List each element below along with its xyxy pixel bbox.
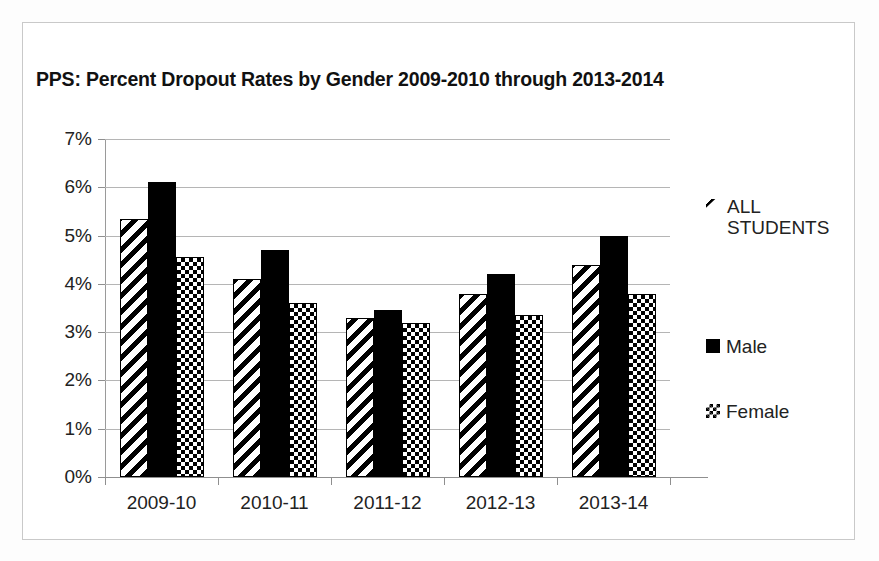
- bar-female-2009-10: [176, 257, 204, 477]
- x-axis-tick-label: 2013-14: [579, 492, 649, 514]
- plot-area: [105, 139, 670, 477]
- bar-all-students-2011-12: [346, 318, 374, 477]
- bar-group: [233, 139, 317, 477]
- y-axis-labels: 0%1%2%3%4%5%6%7%: [40, 0, 92, 561]
- legend-label: Female: [726, 401, 789, 422]
- bar-all-students-2010-11: [233, 279, 261, 477]
- x-axis-tick-label: 2010-11: [240, 492, 308, 514]
- legend-swatch-icon: [706, 404, 720, 418]
- legend-label: Male: [726, 336, 767, 357]
- x-axis-tick-label: 2012-13: [466, 492, 536, 514]
- x-tick: [331, 477, 332, 485]
- bar-all-students-2012-13: [459, 294, 487, 477]
- legend-entry-female: Female: [706, 401, 789, 422]
- y-tick-2%: [98, 380, 105, 381]
- x-axis-labels: 2009-102010-112011-122012-132013-14: [105, 492, 670, 526]
- bar-male-2012-13: [487, 274, 515, 477]
- x-tick: [105, 477, 106, 485]
- legend-swatch-icon: [706, 199, 721, 214]
- bar-all-students-2009-10: [120, 219, 148, 477]
- y-axis-tick-label: 0%: [46, 466, 92, 488]
- x-tick: [218, 477, 219, 485]
- bar-male-2009-10: [148, 182, 176, 477]
- legend-entry-all-students: ALL STUDENTS: [706, 196, 829, 239]
- y-tick-1%: [98, 429, 105, 430]
- bar-group: [120, 139, 204, 477]
- bar-male-2010-11: [261, 250, 289, 477]
- y-axis-tick-label: 5%: [46, 225, 92, 247]
- y-axis-tick-label: 4%: [46, 273, 92, 295]
- bar-all-students-2013-14: [572, 265, 600, 477]
- bar-female-2012-13: [515, 315, 543, 477]
- y-axis-tick-label: 3%: [46, 321, 92, 343]
- y-tick-3%: [98, 332, 105, 333]
- y-tick-7%: [98, 139, 105, 140]
- bar-group: [572, 139, 656, 477]
- x-axis-tick-label: 2011-12: [353, 492, 421, 514]
- bar-group: [459, 139, 543, 477]
- x-tick: [444, 477, 445, 485]
- bar-female-2010-11: [289, 303, 317, 477]
- bar-female-2011-12: [402, 323, 430, 478]
- y-axis-tick-label: 2%: [46, 369, 92, 391]
- legend-entry-male: Male: [706, 336, 767, 357]
- bar-male-2011-12: [374, 310, 402, 477]
- bar-group: [346, 139, 430, 477]
- chart-title: PPS: Percent Dropout Rates by Gender 200…: [36, 68, 676, 91]
- legend-swatch-icon: [706, 339, 720, 353]
- y-axis-tick-label: 1%: [46, 418, 92, 440]
- y-axis-tick-label: 6%: [46, 176, 92, 198]
- legend-label: ALL STUDENTS: [727, 196, 829, 239]
- x-tick: [557, 477, 558, 485]
- bar-male-2013-14: [600, 236, 628, 477]
- y-tick-6%: [98, 187, 105, 188]
- scanned-page: PPS: Percent Dropout Rates by Gender 200…: [0, 0, 879, 561]
- y-tick-5%: [98, 236, 105, 237]
- x-axis-tick-label: 2009-10: [127, 492, 197, 514]
- y-tick-4%: [98, 284, 105, 285]
- y-axis-tick-label: 7%: [46, 128, 92, 150]
- bar-female-2013-14: [628, 294, 656, 477]
- x-tick: [670, 477, 671, 485]
- y-tick-0%: [98, 477, 105, 478]
- gridline-0%: [105, 477, 670, 478]
